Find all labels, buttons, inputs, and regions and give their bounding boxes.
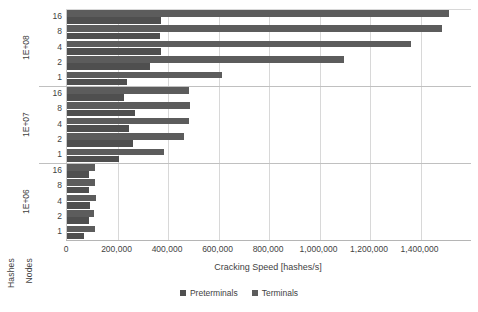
bar-preterminals bbox=[67, 233, 84, 240]
bar-preterminals bbox=[67, 187, 89, 194]
node-tick-label: 1 bbox=[40, 227, 62, 236]
gridline bbox=[421, 9, 422, 240]
node-tick-label: 4 bbox=[40, 197, 62, 206]
group-separator bbox=[39, 163, 471, 164]
bar-terminals bbox=[67, 56, 344, 63]
legend-item[interactable]: Preterminals bbox=[180, 288, 238, 298]
bar-terminals bbox=[67, 210, 94, 217]
x-axis-line bbox=[66, 240, 471, 241]
node-tick-label: 16 bbox=[40, 12, 62, 21]
bar-preterminals bbox=[67, 110, 135, 117]
bar-terminals bbox=[67, 226, 95, 233]
node-tick-label: 8 bbox=[40, 104, 62, 113]
x-tick-label: 1,400,000 bbox=[401, 244, 439, 254]
bar-terminals bbox=[67, 133, 184, 140]
x-tick-label: 1,200,000 bbox=[350, 244, 388, 254]
y-axis-title: Nodes bbox=[24, 258, 34, 284]
bar-preterminals bbox=[67, 33, 160, 40]
x-tick-label: 1,000,000 bbox=[300, 244, 338, 254]
bar-preterminals bbox=[67, 17, 161, 24]
bar-terminals bbox=[67, 102, 190, 109]
group-label: 1E+06 bbox=[14, 163, 38, 240]
bar-terminals bbox=[67, 179, 95, 186]
plot-area bbox=[66, 9, 471, 240]
x-tick-label: 600,000 bbox=[202, 244, 233, 254]
bar-preterminals bbox=[67, 156, 119, 163]
bar-terminals bbox=[67, 195, 96, 202]
bar-preterminals bbox=[67, 48, 161, 55]
x-axis-title: Cracking Speed [hashes/s] bbox=[66, 262, 470, 272]
legend-swatch-icon bbox=[180, 290, 186, 296]
bar-preterminals bbox=[67, 171, 89, 178]
bar-preterminals bbox=[67, 217, 89, 224]
node-tick-label: 8 bbox=[40, 181, 62, 190]
x-tick-label: 0 bbox=[64, 244, 69, 254]
legend-swatch-icon bbox=[252, 290, 258, 296]
bar-preterminals bbox=[67, 79, 127, 86]
node-tick-axis: 168421168421168421 bbox=[38, 0, 62, 312]
node-tick-label: 1 bbox=[40, 150, 62, 159]
bar-preterminals bbox=[67, 202, 90, 209]
bar-terminals bbox=[67, 118, 189, 125]
node-tick-label: 16 bbox=[40, 166, 62, 175]
node-tick-label: 1 bbox=[40, 73, 62, 82]
node-tick-label: 8 bbox=[40, 27, 62, 36]
node-tick-label: 2 bbox=[40, 58, 62, 67]
chart-legend: PreterminalsTerminals bbox=[0, 288, 478, 298]
bar-preterminals bbox=[67, 94, 124, 101]
node-tick-label: 2 bbox=[40, 212, 62, 221]
bar-terminals bbox=[67, 164, 95, 171]
group-label: 1E+07 bbox=[14, 86, 38, 163]
x-tick-label: 400,000 bbox=[152, 244, 183, 254]
bar-preterminals bbox=[67, 140, 133, 147]
node-tick-label: 4 bbox=[40, 120, 62, 129]
legend-item[interactable]: Terminals bbox=[252, 288, 298, 298]
group-label: 1E+08 bbox=[14, 9, 38, 86]
legend-label: Preterminals bbox=[190, 288, 238, 298]
node-tick-label: 16 bbox=[40, 89, 62, 98]
x-tick-label: 800,000 bbox=[253, 244, 284, 254]
bar-chart: Hashes Nodes 1E+081E+071E+06 16842116842… bbox=[0, 0, 478, 312]
bar-terminals bbox=[67, 72, 222, 79]
bar-terminals bbox=[67, 41, 411, 48]
bar-preterminals bbox=[67, 125, 129, 132]
legend-label: Terminals bbox=[262, 288, 298, 298]
y-outer-axis-title: Hashes bbox=[6, 258, 16, 288]
node-tick-label: 4 bbox=[40, 43, 62, 52]
bar-terminals bbox=[67, 87, 189, 94]
bar-terminals bbox=[67, 149, 164, 156]
bar-preterminals bbox=[67, 63, 150, 70]
bar-terminals bbox=[67, 25, 442, 32]
bar-terminals bbox=[67, 10, 449, 17]
node-tick-label: 2 bbox=[40, 135, 62, 144]
x-tick-label: 200,000 bbox=[101, 244, 132, 254]
